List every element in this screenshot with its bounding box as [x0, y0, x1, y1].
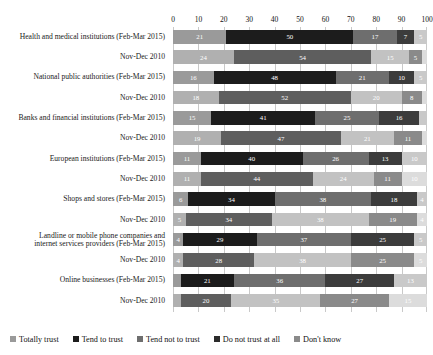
- legend-item: Tend not to trust: [137, 335, 200, 344]
- bar-segment: 29: [183, 233, 257, 247]
- bar-segment: 4: [173, 233, 183, 247]
- bar-segment: 5: [173, 213, 186, 227]
- bar-segment: 25: [315, 111, 379, 125]
- legend-swatch-icon: [294, 336, 300, 342]
- bar-segment: [422, 91, 427, 105]
- x-tick-label: 100: [421, 13, 432, 26]
- category-label: Nov-Dec 2010: [0, 47, 168, 67]
- bar-segment: 10: [402, 172, 427, 186]
- bar-segment: 36: [234, 274, 325, 288]
- category-label: Shops and stores (Feb-Mar 2015): [0, 189, 168, 209]
- stacked-bar: 63438184: [173, 192, 427, 206]
- legend-label: Totally trust: [19, 335, 59, 344]
- table-row: 2454155: [173, 47, 427, 67]
- bar-segment: 21: [341, 131, 394, 145]
- stacked-bar: 1852208: [173, 91, 427, 105]
- bar-segment: 20: [351, 91, 402, 105]
- category-label-line: internet services providers (Feb-Mar 201…: [34, 240, 165, 249]
- legend-item: Tend to trust: [73, 335, 123, 344]
- bar-segment: 24: [173, 50, 234, 64]
- bar-segment: 27: [325, 274, 394, 288]
- category-labels: Health and medical institutions (Feb-Mar…: [0, 27, 168, 311]
- bar-segment: 5: [414, 71, 427, 85]
- bar-segment: 26: [303, 152, 369, 166]
- bar-segment: 41: [211, 111, 315, 125]
- legend-item: Totally trust: [10, 335, 59, 344]
- bar-segment: 50: [226, 30, 353, 44]
- category-label: Landline or mobile phone companies andin…: [0, 230, 168, 250]
- legend-label: Tend not to trust: [146, 335, 200, 344]
- bar-segment: 38: [272, 213, 369, 227]
- bar-segment: 18: [173, 91, 219, 105]
- category-label-line: Nov-Dec 2010: [120, 256, 165, 265]
- bar-segment: 16: [173, 71, 214, 85]
- category-label-line: Nov-Dec 2010: [120, 297, 165, 306]
- legend-swatch-icon: [137, 336, 143, 342]
- chart-legend: Totally trustTend to trustTend not to tr…: [10, 331, 421, 347]
- bar-segment: [422, 50, 427, 64]
- legend-label: Do not trust at all: [223, 335, 280, 344]
- legend-label: Tend to trust: [82, 335, 123, 344]
- bar-segment: 34: [188, 192, 274, 206]
- bar-segment: [422, 131, 427, 145]
- bar-rows: 2150177524541551648211051852208154125161…: [173, 27, 427, 311]
- category-label-line: Nov-Dec 2010: [120, 94, 165, 103]
- category-label-line: Health and medical institutions (Feb-Mar…: [20, 33, 165, 42]
- bar-segment: 15: [389, 294, 427, 308]
- x-tick-label: 80: [372, 13, 380, 26]
- bar-segment: 24: [313, 172, 374, 186]
- category-label: Nov-Dec 2010: [0, 210, 168, 230]
- plot-area: 0102030405060708090100 Health and medica…: [0, 0, 431, 322]
- x-tick-label: 90: [398, 13, 406, 26]
- bar-segment: 5: [414, 30, 427, 44]
- category-label-line: Online businesses (Feb-Mar 2015): [60, 276, 165, 285]
- bar-segment: 18: [371, 192, 417, 206]
- stacked-bar: 19472111: [173, 131, 427, 145]
- legend-swatch-icon: [73, 336, 79, 342]
- category-label-line: Nov-Dec 2010: [120, 216, 165, 225]
- table-row: 164821105: [173, 68, 427, 88]
- bar-segment: [173, 274, 181, 288]
- category-label-line: Banks and financial institutions (Feb-Ma…: [18, 114, 165, 123]
- bar-segment: 10: [402, 152, 427, 166]
- stacked-bar: 1140261310: [173, 152, 427, 166]
- x-tick-label: 20: [220, 13, 228, 26]
- bar-segment: 11: [173, 152, 201, 166]
- bar-segment: 13: [394, 274, 427, 288]
- table-row: 20352715: [173, 291, 427, 311]
- x-tick-label: 70: [347, 13, 355, 26]
- category-label: Nov-Dec 2010: [0, 250, 168, 270]
- category-label: Health and medical institutions (Feb-Mar…: [0, 27, 168, 47]
- stacked-bar: 21362713: [173, 274, 427, 288]
- bar-segment: 37: [257, 233, 351, 247]
- x-tick-label: 10: [195, 13, 203, 26]
- bar-segment: 4: [173, 253, 183, 267]
- bar-segment: 52: [219, 91, 351, 105]
- bar-segment: 38: [254, 253, 351, 267]
- bar-segment: 11: [173, 172, 201, 186]
- category-label-line: Nov-Dec 2010: [120, 134, 165, 143]
- category-label-line: National public authorities (Feb-Mar 201…: [33, 73, 165, 82]
- bar-segment: 15: [173, 111, 211, 125]
- bar-segment: 21: [181, 274, 234, 288]
- bar-segment: 7: [397, 30, 415, 44]
- bar-segment: 11: [374, 172, 402, 186]
- category-label-line: Nov-Dec 2010: [120, 175, 165, 184]
- bar-segment: 28: [183, 253, 254, 267]
- bar-segment: 40: [201, 152, 303, 166]
- table-row: 1852208: [173, 88, 427, 108]
- category-label: Online businesses (Feb-Mar 2015): [0, 271, 168, 291]
- bar-segment: 25: [351, 233, 415, 247]
- bar-segment: 38: [275, 192, 372, 206]
- category-label: Nov-Dec 2010: [0, 291, 168, 311]
- legend-swatch-icon: [214, 336, 220, 342]
- bar-segment: 5: [414, 253, 427, 267]
- bar-segment: 48: [214, 71, 336, 85]
- x-axis-tick-labels: 0102030405060708090100: [173, 13, 427, 26]
- bar-segment: 10: [389, 71, 414, 85]
- x-tick-label: 40: [271, 13, 279, 26]
- stacked-bar: 42937255: [173, 233, 427, 247]
- bar-segment: 13: [369, 152, 402, 166]
- legend-label: Don't know: [303, 335, 341, 344]
- bar-segment: 19: [173, 131, 221, 145]
